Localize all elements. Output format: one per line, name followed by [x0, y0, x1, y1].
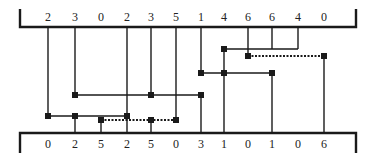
bottom-label: 6: [316, 137, 332, 151]
bottom-label: 0: [240, 137, 256, 151]
top-label: 4: [290, 10, 306, 24]
bus-bars: [20, 9, 356, 153]
bottom-label: 0: [168, 137, 184, 151]
junction-node: [148, 117, 154, 123]
top-label: 6: [264, 10, 280, 24]
junction-node: [198, 70, 204, 76]
top-label: 2: [40, 10, 56, 24]
top-label: 4: [216, 10, 232, 24]
junction-node: [198, 92, 204, 98]
bottom-label: 5: [143, 137, 159, 151]
bottom-label: 5: [93, 137, 109, 151]
junction-node: [148, 92, 154, 98]
junction-node: [321, 53, 327, 59]
junction-node: [72, 113, 78, 119]
wires: [48, 27, 324, 133]
junction-node: [269, 70, 275, 76]
bottom-label: 1: [216, 137, 232, 151]
top-label: 0: [93, 10, 109, 24]
top-label: 3: [143, 10, 159, 24]
junction-node: [98, 117, 104, 123]
bottom-label: 2: [119, 137, 135, 151]
junction-nodes: [45, 46, 327, 123]
top-label: 3: [67, 10, 83, 24]
top-label: 5: [168, 10, 184, 24]
top-label: 0: [316, 10, 332, 24]
junction-node: [45, 113, 51, 119]
junction-node: [245, 53, 251, 59]
bottom-label: 0: [290, 137, 306, 151]
bottom-label: 0: [40, 137, 56, 151]
junction-node: [124, 113, 130, 119]
top-label: 2: [119, 10, 135, 24]
bottom-label: 2: [67, 137, 83, 151]
top-label: 6: [240, 10, 256, 24]
junction-node: [221, 70, 227, 76]
bottom-label: 3: [193, 137, 209, 151]
bottom-label: 1: [264, 137, 280, 151]
junction-node: [173, 117, 179, 123]
junction-node: [221, 46, 227, 52]
junction-node: [72, 92, 78, 98]
top-label: 1: [193, 10, 209, 24]
